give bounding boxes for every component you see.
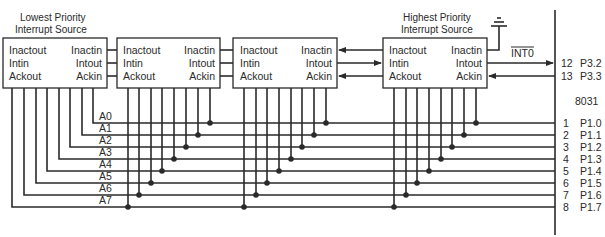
pin-ackin: Ackin [456,70,482,82]
pin-number: 13 [561,70,573,82]
device-3: Inactout Intin Ackout Inactin Intout Ack… [233,38,337,88]
pin-inactout: Inactout [9,44,46,56]
pin-intout: Intout [189,57,215,69]
pin-name: P3.2 [580,57,602,69]
bus-line-a2 [70,88,555,147]
pin-name: P1.5 [580,177,602,189]
chip-interrupt-lines: INT0 [487,47,555,76]
highest-priority-title-line1: Highest Priority [403,12,471,23]
address-label-a0: A0 [99,110,112,122]
chip-name: 8031 [575,95,599,107]
chip-pins-port1: 1 P1.0 2 P1.1 3 P1.2 4 P1.3 5 P1.4 6 P1.… [563,117,602,213]
pin-intin: Intin [9,57,29,69]
pin-intin: Intin [123,57,143,69]
pin-ackin: Ackin [189,70,215,82]
pin-name: P1.6 [580,189,602,201]
address-bus [12,88,555,207]
address-labels: A0 A1 A2 A3 A4 A5 A6 A7 [99,110,112,206]
chip-pins-port3: 12 P3.2 13 P3.3 [561,57,602,82]
pin-name: P1.1 [580,129,602,141]
lowest-priority-title-line2: Interrupt Source [15,24,87,35]
pin-inactin: Inactin [451,44,482,56]
pin-ackout: Ackout [389,70,421,82]
device-3-address-taps [241,88,329,210]
pin-number: 7 [563,189,569,201]
pin-inactout: Inactout [123,44,160,56]
daisy-chain-interrupt-diagram: Lowest Priority Interrupt Source Highest… [0,0,605,237]
pin-number: 1 [563,117,569,129]
pin-number: 4 [563,153,569,165]
address-label-a6: A6 [99,182,112,194]
pin-number: 12 [561,57,573,69]
pin-intout: Intout [456,57,482,69]
pin-inactout: Inactout [240,44,277,56]
address-label-a7: A7 [99,194,112,206]
pin-name: P1.4 [580,165,602,177]
pin-number: 2 [563,129,569,141]
pin-ackin: Ackin [76,70,102,82]
pin-intin: Intin [240,57,260,69]
int0-label: INT0 [511,47,534,59]
device-1: Inactout Intin Ackout Inactin Intout Ack… [3,38,107,88]
pin-name: P1.2 [580,141,602,153]
pin-inactin: Inactin [71,44,102,56]
address-label-a1: A1 [99,122,112,134]
pin-intout: Intout [306,57,332,69]
pin-intin: Intin [389,57,409,69]
address-label-a2: A2 [99,134,112,146]
device-4-address-taps [391,88,479,210]
pin-name: P1.0 [580,117,602,129]
device-2-address-taps [125,88,213,210]
pin-inactin: Inactin [301,44,332,56]
pin-number: 3 [563,141,569,153]
highest-priority-title-line2: Interrupt Source [401,24,473,35]
pin-intout: Intout [76,57,102,69]
address-label-a3: A3 [99,146,112,158]
highest-priority-title: Highest Priority Interrupt Source [401,12,473,35]
pin-number: 6 [563,177,569,189]
pin-inactin: Inactin [184,44,215,56]
device-4: Inactout Intin Ackout Inactin Intout Ack… [383,38,487,88]
address-label-a4: A4 [99,158,112,170]
pin-ackin: Ackin [306,70,332,82]
pin-name: P1.3 [580,153,602,165]
bus-line-a1 [82,88,555,135]
pin-ackout: Ackout [123,70,155,82]
lowest-priority-title-line1: Lowest Priority [20,12,86,23]
pin-ackout: Ackout [9,70,41,82]
device-2: Inactout Intin Ackout Inactin Intout Ack… [117,38,220,88]
ground-icon [487,18,507,50]
lowest-priority-title: Lowest Priority Interrupt Source [15,12,87,35]
address-label-a5: A5 [99,170,112,182]
pin-number: 8 [563,201,569,213]
pin-name: P1.7 [580,201,602,213]
pin-inactout: Inactout [389,44,426,56]
pin-ackout: Ackout [240,70,272,82]
pin-name: P3.3 [580,70,602,82]
pin-number: 5 [563,165,569,177]
